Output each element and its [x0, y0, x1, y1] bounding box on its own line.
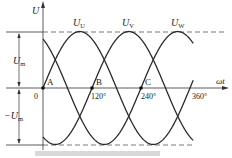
point-c-dot: [139, 86, 143, 90]
neg-um-arrow-down-icon: [17, 139, 20, 144]
uw-label: UW: [171, 17, 185, 29]
point-a-label: A: [47, 77, 54, 87]
neg-um-arrow-up-icon: [17, 89, 20, 94]
tick-120-label: 120°: [91, 92, 106, 101]
neg-um-label-main: −U: [4, 110, 19, 121]
uv-label: UV: [122, 17, 134, 29]
y-axis-arrow-icon: [41, 1, 45, 8]
x-axis-label: ωt: [216, 76, 225, 86]
neg-um-label-sub: m: [18, 115, 23, 122]
neg-um-label: −Um: [4, 110, 23, 122]
point-b-label: B: [96, 77, 102, 87]
uu-label: UU: [73, 17, 85, 29]
uv-label-sub: V: [129, 22, 134, 29]
um-arrow-up-icon: [17, 33, 20, 38]
x-axis-arrow-icon: [222, 86, 229, 90]
point-a-dot: [41, 86, 45, 90]
um-label-sub: m: [20, 60, 25, 67]
point-c-label: C: [145, 77, 151, 87]
three-phase-waveform-diagram: U ωt 0 120° 240° 360° A B C Um −Um UU UV…: [0, 0, 232, 158]
tick-360-label: 360°: [192, 92, 207, 101]
um-label: Um: [13, 55, 25, 67]
y-axis-label: U: [32, 5, 40, 16]
origin-label: 0: [34, 92, 38, 101]
point-b-dot: [90, 86, 94, 90]
uu-label-sub: U: [80, 22, 85, 29]
tick-240-label: 240°: [141, 92, 156, 101]
um-arrow-down-icon: [17, 82, 20, 87]
caption-bar: [35, 151, 160, 156]
uw-label-sub: W: [178, 22, 185, 29]
